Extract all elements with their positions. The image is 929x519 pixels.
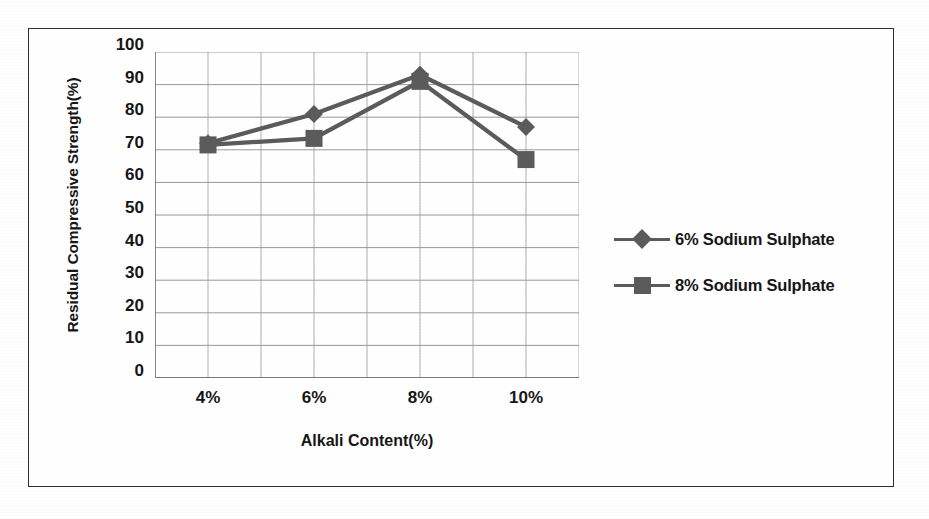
x-axis-title: Alkali Content(%) [155, 432, 579, 450]
chart-figure: Residual Compressive Strength(%) 1009080… [0, 0, 929, 519]
x-tick-label: 10% [509, 388, 543, 408]
y-tick-label: 40 [96, 231, 144, 248]
screenshot-root: Residual Compressive Strength(%) 1009080… [0, 0, 929, 519]
plot-area [155, 52, 579, 378]
x-tick-label: 4% [196, 388, 221, 408]
y-tick-label: 30 [96, 264, 144, 281]
data-point-diamond [517, 118, 535, 136]
plot-svg [155, 52, 579, 378]
y-tick-label: 70 [96, 133, 144, 150]
diamond-marker-icon [614, 228, 670, 250]
y-tick-label: 60 [96, 166, 144, 183]
data-point-square [518, 151, 535, 168]
y-tick-label: 10 [96, 329, 144, 346]
legend-item-series-2: 8% Sodium Sulphate [614, 262, 876, 308]
legend-label-series-2: 8% Sodium Sulphate [675, 276, 835, 295]
y-tick-label: 90 [96, 68, 144, 85]
chart-legend: 6% Sodium Sulphate 8% Sodium Sulphate [614, 216, 876, 308]
y-tick-label: 50 [96, 199, 144, 216]
y-axis-tick-labels: 1009080706050403020100 [96, 44, 144, 386]
y-tick-label: 100 [96, 36, 144, 53]
y-tick-label: 20 [96, 296, 144, 313]
data-point-square [412, 73, 429, 90]
legend-label-series-1: 6% Sodium Sulphate [675, 230, 835, 249]
data-point-diamond [305, 105, 323, 123]
x-tick-label: 6% [302, 388, 327, 408]
x-axis-tick-labels: 4%6%8%10% [155, 388, 579, 416]
y-tick-label: 0 [96, 362, 144, 379]
x-tick-label: 8% [408, 388, 433, 408]
data-point-square [306, 130, 323, 147]
legend-item-series-1: 6% Sodium Sulphate [614, 216, 876, 262]
y-axis-title: Residual Compressive Strength(%) [64, 40, 82, 370]
square-marker-icon [614, 274, 670, 296]
y-tick-label: 80 [96, 101, 144, 118]
data-point-square [200, 136, 217, 153]
